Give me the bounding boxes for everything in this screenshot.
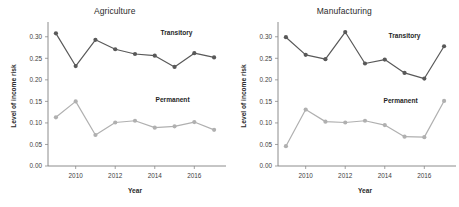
data-point-permanent [153, 126, 157, 130]
data-point-permanent [172, 124, 176, 128]
y-axis-title: Level of income risk [10, 64, 17, 128]
data-point-transitory [362, 61, 366, 65]
data-point-transitory [323, 57, 327, 61]
x-tick-label: 2010 [69, 172, 84, 179]
data-point-transitory [402, 71, 406, 75]
data-point-transitory [172, 65, 176, 69]
data-point-permanent [133, 119, 137, 123]
data-point-transitory [153, 54, 157, 58]
y-tick-label: 0.20 [259, 76, 272, 83]
chart-panel-manufacturing: Manufacturing 0.000.050.100.150.200.250.… [230, 0, 459, 207]
data-point-permanent [362, 119, 366, 123]
x-tick-label: 2016 [417, 172, 432, 179]
data-point-transitory [283, 35, 287, 39]
y-axis-title: Level of income risk [240, 64, 247, 128]
data-point-permanent [303, 107, 307, 111]
data-point-permanent [54, 115, 58, 119]
data-point-permanent [422, 135, 426, 139]
data-point-transitory [133, 52, 137, 56]
data-point-permanent [382, 123, 386, 127]
y-tick-label: 0.30 [30, 33, 43, 40]
series-label-permanent: Permanent [156, 96, 191, 103]
data-point-permanent [343, 120, 347, 124]
y-tick-label: 0.00 [259, 162, 272, 169]
x-tick-label: 2012 [338, 172, 353, 179]
y-tick-label: 0.15 [259, 98, 272, 105]
x-tick-label: 2010 [298, 172, 313, 179]
series-label-permanent: Permanent [383, 97, 418, 104]
x-tick-label: 2014 [148, 172, 163, 179]
data-point-transitory [212, 55, 216, 59]
data-point-transitory [74, 64, 78, 68]
data-point-permanent [113, 120, 117, 124]
data-point-transitory [422, 76, 426, 80]
y-tick-label: 0.10 [30, 119, 43, 126]
data-point-transitory [343, 30, 347, 34]
data-point-transitory [303, 53, 307, 57]
data-point-transitory [382, 58, 386, 62]
x-axis-title: Year [358, 187, 372, 194]
data-point-permanent [283, 144, 287, 148]
data-point-transitory [54, 31, 58, 35]
y-tick-label: 0.10 [259, 119, 272, 126]
y-tick-label: 0.05 [30, 141, 43, 148]
data-point-permanent [212, 128, 216, 132]
data-point-permanent [74, 99, 78, 103]
y-tick-label: 0.30 [259, 33, 272, 40]
data-point-permanent [192, 120, 196, 124]
y-tick-label: 0.20 [30, 76, 43, 83]
x-tick-label: 2012 [108, 172, 123, 179]
data-point-transitory [192, 51, 196, 55]
y-tick-label: 0.05 [259, 141, 272, 148]
data-point-permanent [402, 135, 406, 139]
y-tick-label: 0.25 [259, 55, 272, 62]
data-point-permanent [323, 120, 327, 124]
chart-plot-area: 0.000.050.100.150.200.250.30201020122014… [230, 0, 459, 207]
data-point-transitory [113, 47, 117, 51]
series-line-permanent [56, 101, 214, 135]
data-point-transitory [93, 38, 97, 42]
y-tick-label: 0.25 [30, 55, 43, 62]
series-label-transitory: Transitory [161, 29, 193, 37]
series-line-transitory [56, 33, 214, 67]
chart-plot-area: 0.000.050.100.150.200.250.30201020122014… [0, 0, 230, 207]
data-point-permanent [93, 133, 97, 137]
x-axis-title: Year [128, 187, 142, 194]
series-label-transitory: Transitory [388, 32, 420, 40]
chart-panel-agriculture: Agriculture 0.000.050.100.150.200.250.30… [0, 0, 230, 207]
y-tick-label: 0.15 [30, 98, 43, 105]
data-point-permanent [441, 99, 445, 103]
data-point-transitory [441, 44, 445, 48]
y-tick-label: 0.00 [30, 162, 43, 169]
series-line-permanent [285, 101, 443, 146]
figure-container: Agriculture 0.000.050.100.150.200.250.30… [0, 0, 459, 207]
x-tick-label: 2016 [187, 172, 202, 179]
x-tick-label: 2014 [377, 172, 392, 179]
